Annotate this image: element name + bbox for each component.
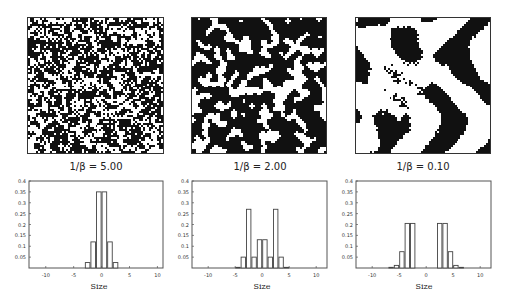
svg-text:0.4: 0.4 — [18, 178, 26, 184]
svg-text:-5: -5 — [397, 272, 402, 278]
panel-caption-1: 1/β = 5.00 — [26, 161, 166, 172]
svg-text:0.3: 0.3 — [181, 200, 189, 206]
panel-caption-2: 1/β = 2.00 — [190, 161, 330, 172]
svg-text:0.3: 0.3 — [18, 200, 26, 206]
svg-text:0.1: 0.1 — [181, 243, 189, 249]
svg-text:5: 5 — [128, 272, 131, 278]
svg-text:10: 10 — [154, 272, 160, 278]
svg-text:0.35: 0.35 — [178, 189, 189, 195]
svg-text:0.2: 0.2 — [18, 222, 26, 228]
svg-text:10: 10 — [313, 272, 319, 278]
svg-text:0: 0 — [100, 272, 103, 278]
svg-text:0.15: 0.15 — [15, 232, 26, 238]
svg-text:0.25: 0.25 — [15, 211, 26, 217]
svg-text:0.4: 0.4 — [181, 178, 189, 184]
svg-text:0.15: 0.15 — [342, 232, 353, 238]
histogram-chart-2: 0.050.10.150.20.250.30.350.4-10-50510 — [192, 181, 327, 268]
spin-pattern-1 — [27, 17, 164, 154]
svg-text:0.15: 0.15 — [178, 232, 189, 238]
x-axis-label-1: Size — [69, 282, 129, 291]
svg-text:0.1: 0.1 — [18, 243, 26, 249]
svg-text:0.35: 0.35 — [342, 189, 353, 195]
x-axis-label-3: Size — [394, 282, 454, 291]
svg-text:0.05: 0.05 — [178, 254, 189, 260]
svg-text:0.25: 0.25 — [178, 211, 189, 217]
histogram-chart-1: 0.050.10.150.20.250.30.350.4-10-50510 — [29, 181, 163, 268]
svg-text:0.05: 0.05 — [15, 254, 26, 260]
svg-text:0.3: 0.3 — [345, 200, 353, 206]
svg-text:-10: -10 — [368, 272, 376, 278]
svg-text:5: 5 — [452, 272, 455, 278]
svg-text:0.05: 0.05 — [342, 254, 353, 260]
panel-caption-3: 1/β = 0.10 — [353, 161, 493, 172]
x-axis-label-2: Size — [232, 282, 292, 291]
svg-text:-5: -5 — [71, 272, 76, 278]
svg-text:0: 0 — [261, 272, 264, 278]
svg-text:0.35: 0.35 — [15, 189, 26, 195]
svg-text:0.2: 0.2 — [181, 222, 189, 228]
svg-text:0.1: 0.1 — [345, 243, 353, 249]
spin-pattern-3 — [355, 17, 491, 154]
svg-text:0.25: 0.25 — [342, 211, 353, 217]
svg-text:-10: -10 — [42, 272, 50, 278]
svg-text:0.2: 0.2 — [345, 222, 353, 228]
svg-text:-5: -5 — [233, 272, 238, 278]
svg-text:0: 0 — [425, 272, 428, 278]
svg-text:-10: -10 — [204, 272, 212, 278]
histogram-chart-3: 0.050.10.150.20.250.30.350.4-10-50510 — [356, 181, 491, 268]
svg-text:5: 5 — [288, 272, 291, 278]
svg-text:0.4: 0.4 — [345, 178, 353, 184]
svg-text:10: 10 — [477, 272, 483, 278]
spin-pattern-2 — [191, 17, 327, 154]
